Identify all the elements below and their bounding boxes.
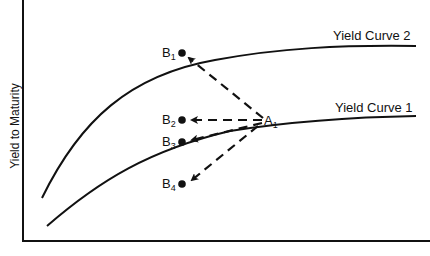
point-b4: B4 [162,176,186,193]
yield-curve-1-label: Yield Curve 1 [335,100,413,115]
yield-curve-2-label: Yield Curve 2 [333,28,411,43]
point-b3-marker [178,138,186,146]
yield-curve-1 [47,116,416,226]
yield-curve-2 [42,46,416,198]
yield-curve-diagram: Yield Curve 2 Yield Curve 1 A1 B1 B2 B3 … [0,0,430,256]
arrow-a1-to-b4 [192,126,258,180]
arrow-a1-to-b1 [189,58,263,118]
point-b4-label: B4 [162,176,176,193]
point-a1-label: A1 [264,113,278,130]
point-b1-marker [178,49,186,57]
point-b2: B2 [162,112,186,129]
point-b2-marker [178,116,186,124]
point-b3: B3 [162,134,186,151]
point-b4-marker [178,180,186,188]
point-b1-label: B1 [162,45,176,62]
point-b2-label: B2 [162,112,176,129]
point-b1: B1 [162,45,186,62]
point-b3-label: B3 [162,134,176,151]
dashed-arrows [189,58,263,180]
